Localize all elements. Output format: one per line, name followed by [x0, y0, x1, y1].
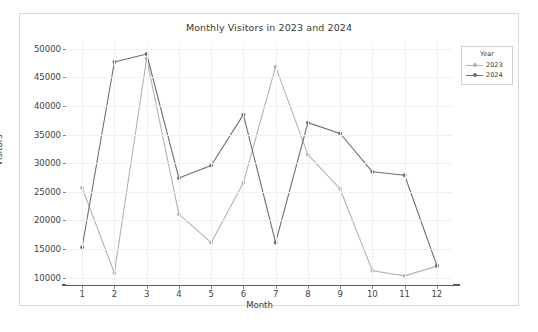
gridline-vertical [82, 42, 83, 285]
x-axis-tick-mark [276, 286, 277, 289]
x-axis-tick-label: 1 [79, 289, 84, 299]
gridline-vertical [147, 42, 148, 285]
y-axis-tick-label: 15000 [34, 244, 61, 254]
series-line-2023 [82, 59, 437, 276]
x-axis-tick-label: 8 [305, 289, 310, 299]
x-axis-label: Month [66, 300, 453, 310]
gridline-horizontal [66, 106, 453, 107]
y-axis-tick-label: 10000 [34, 273, 61, 283]
legend-entries: 20232024 [466, 60, 508, 80]
chart-title: Monthly Visitors in 2023 and 2024 [0, 22, 538, 33]
x-axis-tick-label: 6 [241, 289, 246, 299]
x-axis-tick-mark [243, 286, 244, 289]
gridline-horizontal [66, 192, 453, 193]
x-axis-tick-mark [147, 286, 148, 289]
gridline-vertical [340, 42, 341, 285]
gridline-vertical [437, 42, 438, 285]
gridline-vertical [308, 42, 309, 285]
x-axis-tick-mark [114, 286, 115, 289]
x-axis-tick-label: 4 [176, 289, 181, 299]
x-axis-tick-label: 9 [337, 289, 342, 299]
gridline-vertical [405, 42, 406, 285]
y-axis-tick-label: 45000 [34, 72, 61, 82]
x-axis-tick-label: 3 [144, 289, 149, 299]
gridline-vertical [276, 42, 277, 285]
y-axis-tick-label: 20000 [34, 215, 61, 225]
y-axis-tick-label: 35000 [34, 130, 61, 140]
gridline-horizontal [66, 49, 453, 50]
x-axis-tick-label: 7 [273, 289, 278, 299]
legend-title: Year [466, 50, 508, 58]
series-line-2024 [82, 54, 437, 266]
gridline-horizontal [66, 77, 453, 78]
y-axis-tick-labels: 1000015000200002500030000350004000045000… [0, 42, 61, 285]
gridline-vertical [211, 42, 212, 285]
x-axis-tick-mark [82, 286, 83, 289]
x-axis-tick-label: 12 [431, 289, 442, 299]
gridline-vertical [114, 42, 115, 285]
figure-canvas: Monthly Visitors in 2023 and 2024 100001… [0, 0, 538, 332]
gridline-horizontal [66, 278, 453, 279]
legend-swatch-icon [466, 71, 483, 79]
x-axis-tick-label: 11 [399, 289, 410, 299]
y-axis-tick-label: 50000 [34, 44, 61, 54]
y-axis-tick-label: 25000 [34, 187, 61, 197]
legend-entry-2023[interactable]: 2023 [466, 60, 508, 70]
x-axis-tick-label: 2 [112, 289, 117, 299]
legend[interactable]: Year 20232024 [461, 46, 513, 85]
y-axis-label: Visitors [0, 134, 4, 165]
gridline-horizontal [66, 163, 453, 164]
gridline-horizontal [66, 249, 453, 250]
x-axis-tick-label: 10 [367, 289, 378, 299]
x-axis-tick-mark [437, 286, 438, 289]
gridline-horizontal [66, 220, 453, 221]
legend-label: 2024 [486, 71, 503, 79]
gridline-vertical [372, 42, 373, 285]
plot-area [66, 42, 453, 285]
legend-label: 2023 [486, 61, 503, 69]
legend-swatch-icon [466, 61, 483, 69]
x-axis-tick-mark [179, 286, 180, 289]
gridline-horizontal [66, 135, 453, 136]
x-axis-tick-mark [308, 286, 309, 289]
x-axis-tick-label: 5 [208, 289, 213, 299]
y-axis-tick-label: 30000 [34, 158, 61, 168]
x-axis-tick-mark [211, 286, 212, 289]
x-axis-tick-mark [340, 286, 341, 289]
gridline-vertical [179, 42, 180, 285]
legend-entry-2024[interactable]: 2024 [466, 70, 508, 80]
plot-axes [66, 42, 453, 285]
x-axis-tick-mark [372, 286, 373, 289]
x-axis-tick-mark [405, 286, 406, 289]
y-axis-tick-label: 40000 [34, 101, 61, 111]
gridline-vertical [243, 42, 244, 285]
